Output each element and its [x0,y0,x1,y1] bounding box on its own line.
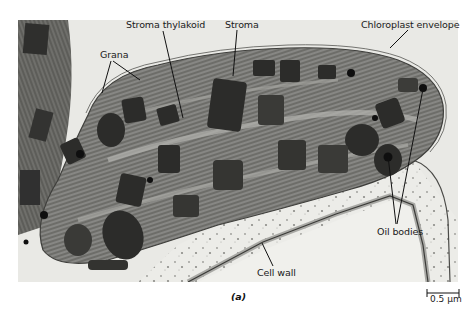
label-oil-bodies: Oil bodies [377,227,423,237]
scale-bar-label: 0.5 μm [430,294,462,304]
figure: Grana Stroma thylakoid Stroma Chloroplas… [0,0,475,315]
label-stroma: Stroma [225,20,259,30]
panel-label: (a) [231,291,246,302]
label-grana: Grana [100,50,128,60]
label-cell-wall: Cell wall [257,268,296,278]
label-stroma-thylakoid: Stroma thylakoid [126,20,205,30]
leader-lines [0,0,475,315]
label-chloroplast-envelope: Chloroplast envelope [361,20,459,30]
